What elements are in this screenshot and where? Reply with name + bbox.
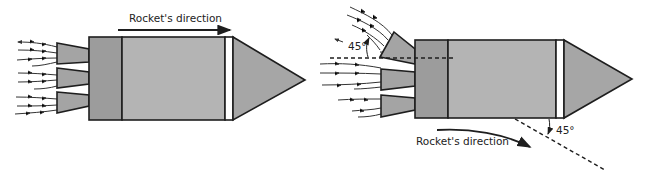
course-angle-arc (548, 119, 550, 134)
right-nozzle-bottom (381, 95, 415, 117)
rocket-thrust-diagram: Rocket's direction (0, 0, 650, 176)
right-nozzle-middle (381, 69, 415, 90)
right-rocket-nose-cone (564, 40, 632, 118)
right-rocket-panel: 45° 45° Rocket's direction (320, 7, 632, 170)
left-exhaust-streaks (15, 40, 57, 115)
right-rocket-engine-section (415, 40, 448, 118)
left-rocket-panel: Rocket's direction (15, 12, 305, 120)
right-rocket-body (448, 40, 556, 118)
right-direction-label: Rocket's direction (416, 135, 509, 147)
left-nozzle-top (57, 43, 89, 64)
left-direction-label: Rocket's direction (129, 12, 222, 24)
left-rocket-engine-section (89, 37, 122, 120)
nozzle-angle-arc (367, 38, 369, 57)
right-rocket-band (556, 40, 564, 118)
left-rocket-band (225, 37, 233, 120)
left-nozzle-bottom (57, 92, 89, 113)
nozzle-angle-tick (335, 39, 343, 42)
left-nozzle-middle (57, 68, 89, 88)
course-angle-label: 45° (556, 124, 575, 136)
nozzle-angle-label: 45° (348, 40, 367, 52)
left-rocket-nose-cone (233, 37, 305, 120)
left-rocket-body (122, 37, 225, 120)
